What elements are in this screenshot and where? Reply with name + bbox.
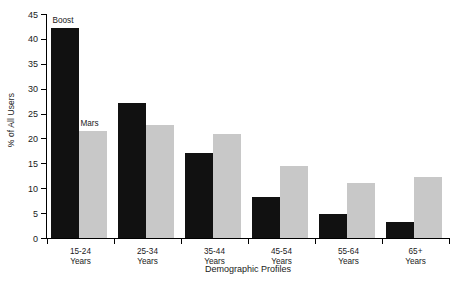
plot-area: 051015202530354045 15-24Years25-34Years3… xyxy=(47,14,449,238)
x-axis-label-line: 65+ xyxy=(376,247,456,257)
y-tick-label: 10 xyxy=(28,184,38,194)
y-tick-label: 5 xyxy=(33,209,38,219)
y-tick-label: 30 xyxy=(28,84,38,94)
y-tick-mark xyxy=(41,14,47,15)
y-tick-mark xyxy=(41,114,47,115)
x-tick-mark xyxy=(181,238,182,244)
bar-mars-5 xyxy=(414,177,442,238)
bar-boost-2 xyxy=(185,153,213,238)
y-tick-label: 45 xyxy=(28,10,38,20)
x-axis-title: Demographic Profiles xyxy=(47,264,449,274)
bar-chart: % of All Users 051015202530354045 15-24Y… xyxy=(0,0,462,289)
y-tick-label: 35 xyxy=(28,59,38,69)
bar-mars-3 xyxy=(280,166,308,238)
y-tick-label: 40 xyxy=(28,34,38,44)
series-label-boost: Boost xyxy=(53,16,74,25)
bar-boost-0 xyxy=(51,28,79,238)
y-tick-label: 15 xyxy=(28,159,38,169)
bar-mars-4 xyxy=(347,183,375,238)
bar-group xyxy=(252,14,308,238)
y-tick-label: 25 xyxy=(28,109,38,119)
y-tick: 40 xyxy=(41,39,47,40)
x-tick-mark xyxy=(382,238,383,244)
y-tick: 25 xyxy=(41,114,47,115)
y-tick: 45 xyxy=(41,14,47,15)
x-tick-mark xyxy=(315,238,316,244)
y-tick-mark xyxy=(41,39,47,40)
x-tick-mark xyxy=(248,238,249,244)
y-tick-mark xyxy=(41,188,47,189)
y-tick-label: 0 xyxy=(33,234,38,244)
bar-boost-5 xyxy=(386,222,414,238)
series-label-mars: Mars xyxy=(81,119,99,128)
y-tick-mark xyxy=(41,64,47,65)
bar-mars-2 xyxy=(213,134,241,238)
y-tick-mark xyxy=(41,163,47,164)
y-tick-mark xyxy=(41,89,47,90)
y-axis-line xyxy=(46,14,47,239)
y-axis-title-text: % of All Users xyxy=(6,93,16,147)
x-tick-mark xyxy=(449,238,450,244)
bar-group xyxy=(386,14,442,238)
y-tick: 15 xyxy=(41,163,47,164)
y-tick-mark xyxy=(41,213,47,214)
bar-boost-1 xyxy=(118,103,146,238)
bar-boost-4 xyxy=(319,214,347,238)
bar-mars-1 xyxy=(146,125,174,238)
bar-group xyxy=(185,14,241,238)
x-tick-mark xyxy=(114,238,115,244)
y-tick: 5 xyxy=(41,213,47,214)
y-tick: 35 xyxy=(41,64,47,65)
y-tick: 30 xyxy=(41,89,47,90)
bar-mars-0 xyxy=(79,131,107,238)
bar-group xyxy=(118,14,174,238)
y-tick: 20 xyxy=(41,138,47,139)
bar-group xyxy=(319,14,375,238)
bar-boost-3 xyxy=(252,197,280,238)
y-tick: 10 xyxy=(41,188,47,189)
y-axis-title: % of All Users xyxy=(0,0,22,240)
y-tick-label: 20 xyxy=(28,134,38,144)
x-tick-mark xyxy=(47,238,48,244)
y-tick-mark xyxy=(41,138,47,139)
